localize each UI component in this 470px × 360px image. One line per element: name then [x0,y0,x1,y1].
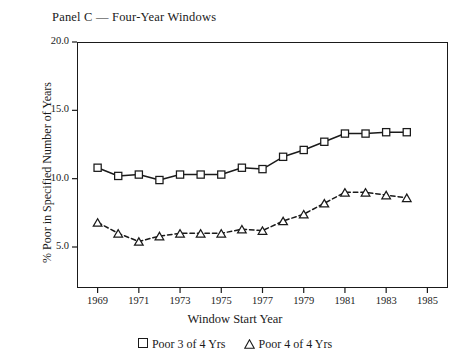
chart-legend: Poor 3 of 4 YrsPoor 4 of 4 Yrs [0,336,470,352]
legend-entry-1: Poor 4 of 4 Yrs [244,336,333,352]
x-axis-tick-2: 1973 [160,295,200,306]
x-axis-tick-1: 1971 [119,295,159,306]
chart-panel: Panel C — Four-Year Windows % Poor in Sp… [0,0,470,360]
y-axis-tick-3: 20.0 [23,35,69,46]
square-marker-icon [138,338,148,348]
legend-label: Poor 3 of 4 Yrs [152,337,226,352]
x-axis-tick-5: 1979 [284,295,324,306]
x-axis-tick-3: 1975 [201,295,241,306]
y-axis-tick-2: 15.0 [23,103,69,114]
x-axis-tick-6: 1981 [325,295,365,306]
y-axis-tick-1: 10.0 [23,172,69,183]
plot-frame [77,42,448,288]
page-title: Panel C — Four-Year Windows [52,10,216,25]
x-axis-tick-0: 1969 [78,295,118,306]
x-axis-tick-4: 1977 [243,295,283,306]
triangle-marker-icon [244,338,255,348]
x-axis-label: Window Start Year [0,312,470,327]
legend-entry-0: Poor 3 of 4 Yrs [138,336,226,352]
legend-label: Poor 4 of 4 Yrs [259,337,333,352]
y-axis-tick-0: 5.0 [23,240,69,251]
x-axis-tick-7: 1983 [366,295,406,306]
x-axis-tick-8: 1985 [407,295,447,306]
